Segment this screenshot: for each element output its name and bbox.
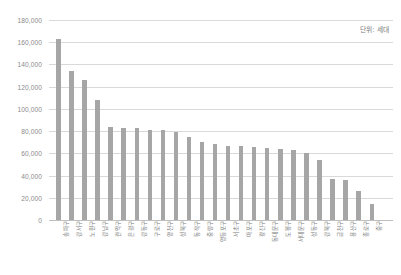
unit-note: 단위: 세대: [360, 24, 389, 34]
x-axis-tick-label: 도봉구: [283, 221, 293, 275]
bar: [239, 146, 243, 220]
bar: [121, 128, 125, 220]
bar: [161, 130, 165, 220]
x-axis-tick-label: 금천구: [335, 221, 345, 275]
bar: [200, 142, 204, 220]
y-axis-tick-label: 120,000: [17, 83, 42, 90]
x-axis-tick-label: 양천구: [165, 221, 175, 275]
bar: [226, 146, 230, 220]
y-axis-tick-label: 140,000: [17, 61, 42, 68]
bar: [330, 179, 334, 220]
y-axis-tick-label: 0: [38, 217, 42, 224]
y-axis-tick-label: 20,000: [21, 194, 42, 201]
bar: [304, 153, 308, 220]
x-axis-tick-label: 광진구: [257, 221, 267, 275]
x-axis-tick-label: 강서구: [74, 221, 84, 275]
bar: [82, 80, 86, 220]
x-axis-tick-label: 송파구: [61, 221, 71, 275]
y-axis-tick-label: 40,000: [21, 172, 42, 179]
x-axis-tick-label: 용산구: [348, 221, 358, 275]
bar: [187, 137, 191, 220]
x-axis-tick-label: 성북구: [178, 221, 188, 275]
y-axis-tick-label: 180,000: [17, 17, 42, 24]
bar: [291, 150, 295, 220]
x-axis-tick-label: 구로구: [152, 221, 162, 275]
bar: [135, 128, 139, 220]
bar-chart: 180,000160,000140,000120,000100,00080,00…: [0, 0, 401, 275]
x-axis-tick-label: 관악구: [113, 221, 123, 275]
x-axis-tick-label: 성동구: [309, 221, 319, 275]
bar: [278, 149, 282, 220]
x-axis-tick-label: 동작구: [192, 221, 202, 275]
x-axis-tick-label: 강북구: [322, 221, 332, 275]
y-axis-labels: 180,000160,000140,000120,000100,00080,00…: [0, 20, 46, 220]
x-axis-tick-label: 마포구: [244, 221, 254, 275]
y-axis-tick-label: 100,000: [17, 105, 42, 112]
x-axis-tick-label: 종로구: [361, 221, 371, 275]
x-axis-labels: 송파구강서구노원구강남구관악구은평구강동구구로구양천구성북구동작구중랑구영등포구…: [49, 221, 393, 275]
bar: [265, 148, 269, 220]
bar: [343, 180, 347, 220]
x-axis-tick-label: 강남구: [100, 221, 110, 275]
bar: [108, 127, 112, 220]
x-axis-tick-label: 동대문구: [270, 221, 280, 275]
bar: [56, 39, 60, 220]
x-axis-tick-label: 영등포구: [218, 221, 228, 275]
bar: [69, 71, 73, 220]
bar-series: [49, 20, 393, 220]
bar: [356, 191, 360, 220]
bar: [252, 147, 256, 220]
plot-area: [49, 20, 393, 220]
y-axis-tick-label: 160,000: [17, 39, 42, 46]
x-axis-tick-label: 강동구: [139, 221, 149, 275]
bar: [95, 100, 99, 220]
y-axis-tick-label: 60,000: [21, 150, 42, 157]
bar: [370, 204, 374, 220]
x-axis-tick-label: 은평구: [126, 221, 136, 275]
x-axis-tick-label: 서초구: [231, 221, 241, 275]
bar: [213, 144, 217, 220]
x-axis-tick-label: 노원구: [87, 221, 97, 275]
x-axis-tick-label: 중랑구: [205, 221, 215, 275]
bar: [174, 132, 178, 220]
bar: [148, 130, 152, 220]
bar: [317, 160, 321, 220]
y-axis-tick-label: 80,000: [21, 128, 42, 135]
x-axis-tick-label: 중구: [374, 221, 384, 275]
x-axis-tick-label: 서대문구: [296, 221, 306, 275]
